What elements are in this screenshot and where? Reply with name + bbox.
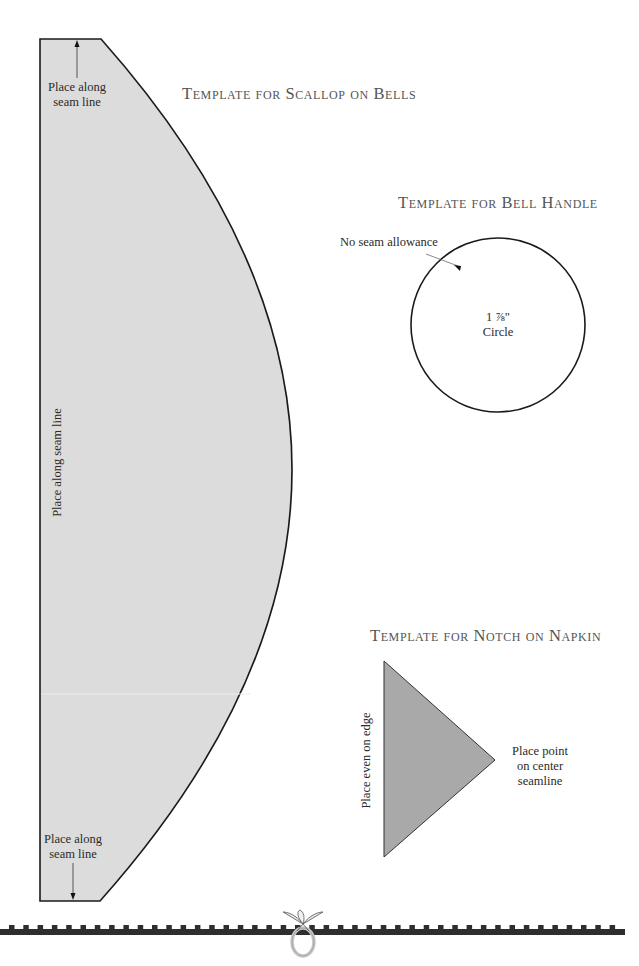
scallop-top-label-line1: Place along: [44, 80, 110, 95]
notch-point-label-line2: on center: [500, 759, 580, 774]
scallop-bottom-label-line2: seam line: [40, 847, 106, 862]
circle-size-value: 1 ⅞": [458, 310, 538, 325]
scallop-bottom-label: Place along seam line: [40, 832, 106, 862]
template-artwork: [0, 0, 639, 966]
scallop-top-label: Place along seam line: [44, 80, 110, 110]
notch-point-label-line1: Place point: [500, 744, 580, 759]
notch-point-label: Place point on center seamline: [500, 744, 580, 789]
scallop-bottom-label-line1: Place along: [40, 832, 106, 847]
notch-side-label: Place even on edge: [359, 701, 374, 821]
notch-point-label-line3: seamline: [500, 774, 580, 789]
scallop-top-label-line2: seam line: [44, 95, 110, 110]
notch-template-shape: [384, 661, 495, 857]
scallop-template-shape: [40, 39, 292, 901]
no-seam-allowance-callout: No seam allowance: [340, 235, 438, 250]
circle-size-label: 1 ⅞" Circle: [458, 310, 538, 340]
circle-shape-label: Circle: [458, 325, 538, 340]
notch-template-title: Template for Notch on Napkin: [370, 626, 601, 646]
bell-handle-title: Template for Bell Handle: [398, 193, 598, 213]
scallop-side-label: Place along seam line: [50, 403, 65, 523]
scallop-template-title: Template for Scallop on Bells: [182, 84, 416, 104]
